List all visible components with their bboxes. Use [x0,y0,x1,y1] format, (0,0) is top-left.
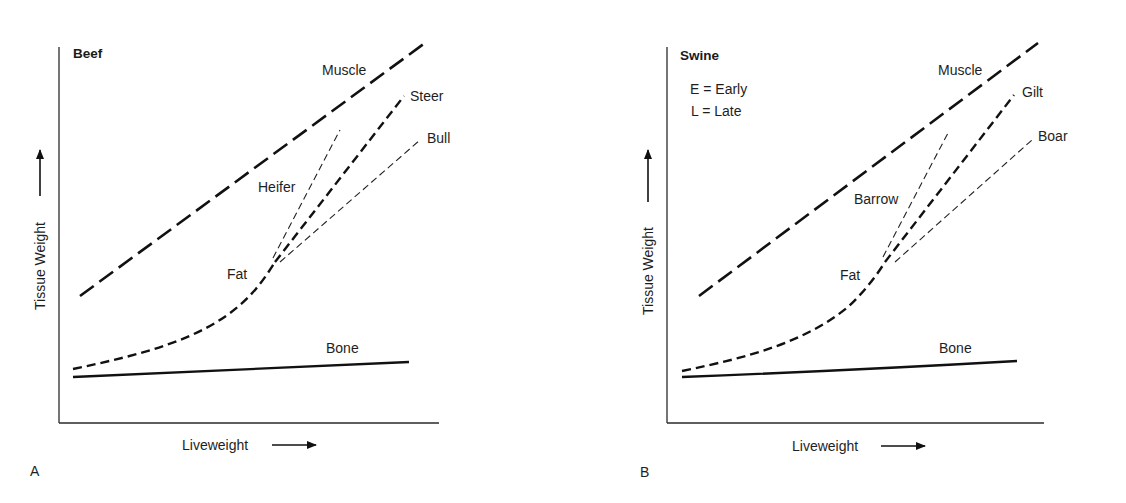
steer-label: Steer [410,88,444,104]
x-axis-label: Liveweight [792,438,858,454]
figure-canvas: Beef Muscle Fat Steer Bull Heifer Bone L… [0,0,1126,503]
panel-title: Swine [680,48,720,63]
x-axis-label: Liveweight [182,437,248,453]
bull-line [280,140,420,262]
muscle-label: Muscle [938,62,983,78]
muscle-line [80,43,425,296]
barrow-label: Barrow [854,191,899,207]
legend-early: E = Early [690,81,747,97]
gilt-line [885,95,1014,262]
fat-label: Fat [227,266,247,282]
legend-late: L = Late [691,103,742,119]
muscle-label: Muscle [322,62,367,78]
panel-a-beef: Beef Muscle Fat Steer Bull Heifer Bone L… [30,43,450,479]
y-axis-label: Tissue Weight [32,222,48,310]
boar-line [895,140,1032,262]
muscle-line [699,43,1038,296]
heifer-label: Heifer [258,179,296,195]
bone-line [73,362,409,377]
panel-title: Beef [73,46,103,61]
panel-b-swine: Swine E = Early L = Late Muscle Fat Gilt… [640,43,1068,480]
bull-label: Bull [427,130,450,146]
boar-label: Boar [1038,128,1068,144]
bone-line [682,361,1017,377]
panel-letter: B [640,464,649,480]
bone-label: Bone [939,340,972,356]
y-axis-label: Tissue Weight [640,227,656,315]
panel-letter: A [30,463,40,479]
bone-label: Bone [326,340,359,356]
gilt-label: Gilt [1022,84,1043,100]
fat-label: Fat [840,267,860,283]
